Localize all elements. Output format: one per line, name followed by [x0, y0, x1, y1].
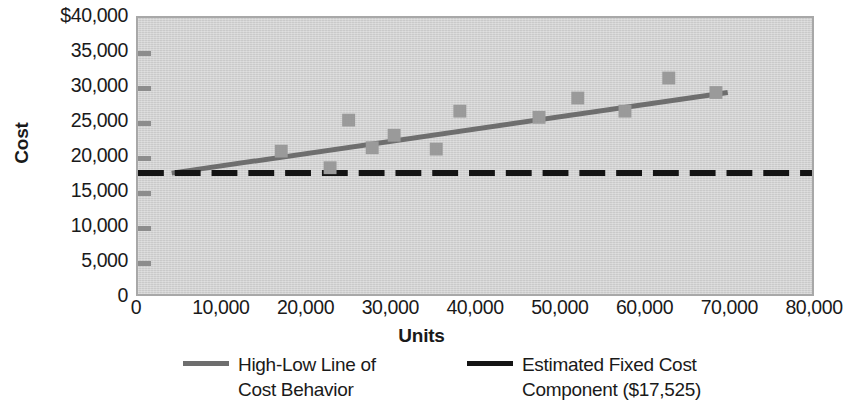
legend-swatch-fixed-cost — [467, 361, 513, 366]
chart-legend: High-Low Line of Cost Behavior Estimated… — [0, 352, 843, 415]
x-axis-title: Units — [0, 325, 843, 347]
high-low-cost-behavior-chart: Cost 05,00010,00015,00020,00025,00030,00… — [0, 0, 843, 415]
legend-entry-fixed-cost: Estimated Fixed Cost Component ($17,525) — [467, 352, 701, 402]
legend-label-high-low-line: High-Low Line of Cost Behavior — [238, 352, 376, 402]
legend-label-fixed-cost: Estimated Fixed Cost Component ($17,525) — [522, 352, 701, 402]
legend-entry-high-low-line: High-Low Line of Cost Behavior — [183, 352, 376, 402]
x-axis-tick-label: 80,000 — [754, 298, 843, 318]
legend-swatch-high-low-line — [183, 361, 229, 366]
